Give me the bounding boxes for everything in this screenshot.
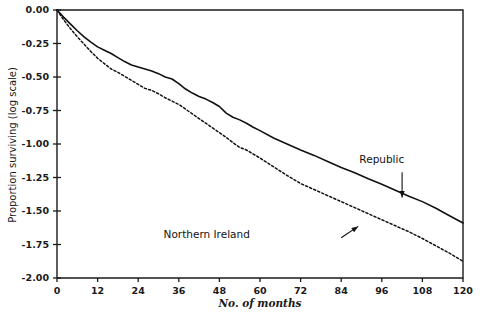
y-axis-tick-labels: 0.00-0.25-0.50-0.75-1.00-1.25-1.50-1.75-…	[22, 4, 50, 283]
northern-ireland-series-label: Northern Ireland	[164, 228, 250, 240]
y-tick-label: -0.50	[22, 71, 50, 82]
x-tick-label: 0	[54, 285, 61, 296]
republic-series-label: Republic	[359, 153, 404, 165]
y-tick-label: -0.75	[22, 105, 49, 116]
chart-svg: 01224364860728496108120 0.00-0.25-0.50-0…	[0, 0, 480, 321]
x-tick-label: 120	[453, 285, 473, 296]
x-tick-label: 12	[91, 285, 104, 296]
x-tick-label: 96	[375, 285, 389, 296]
x-tick-label: 60	[253, 285, 267, 296]
y-tick-label: -0.25	[22, 38, 49, 49]
chart-background	[0, 0, 480, 321]
y-tick-label: -1.75	[22, 239, 49, 250]
survival-chart: 01224364860728496108120 0.00-0.25-0.50-0…	[0, 0, 480, 321]
x-axis-title: No. of months	[217, 297, 301, 309]
x-tick-label: 72	[294, 285, 307, 296]
x-tick-label: 108	[412, 285, 432, 296]
y-tick-label: -1.25	[22, 172, 49, 183]
y-tick-label: -2.00	[22, 272, 50, 283]
x-tick-label: 48	[213, 285, 227, 296]
y-tick-label: -1.00	[22, 138, 50, 149]
y-axis-title: Proportion surviving (log scale)	[7, 67, 18, 223]
x-tick-label: 84	[335, 285, 349, 296]
y-tick-label: -1.50	[22, 205, 50, 216]
y-tick-label: 0.00	[26, 4, 50, 15]
x-tick-label: 36	[172, 285, 186, 296]
x-tick-label: 24	[132, 285, 146, 296]
